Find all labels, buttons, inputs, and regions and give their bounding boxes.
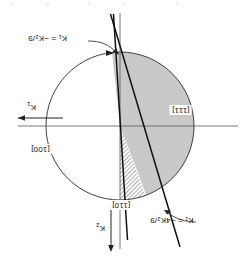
axis-label-k1: K1 [27,101,36,111]
k1-axis-arrow [18,115,63,121]
axis-label-k2: K2 [96,222,105,232]
scan-speckle [122,4,124,5]
annotation-k1-eq-neg-4k2-over-9: K₁ = −4K₂/9 [150,216,194,224]
axis-label-k1-text: K [31,103,37,112]
annotation-k1-eq-neg-k2-over-9: K₁ = −K₂/9 [28,34,67,42]
region-label-111: [111] [170,105,192,115]
axis-label-k1-subscript: 1 [27,101,31,107]
axis-label-k2-subscript: 2 [96,222,100,228]
region-label-110: [110] [110,200,132,210]
scan-speckle [88,3,90,4]
k2-axis-arrow [108,206,114,252]
region-label-100: [100] [29,144,52,154]
axis-label-k2-text: K [100,224,106,233]
scan-speckle [176,3,178,4]
figure-canvas: K₁ = −K₂/9 K₁ = −4K₂/9 [111] [100] [110]… [0,0,245,258]
scan-speckle [46,4,49,5]
scan-speckle [12,3,14,4]
